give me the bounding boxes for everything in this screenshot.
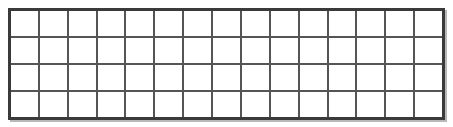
mesh-cell (69, 11, 96, 36)
mesh-cell (155, 11, 182, 36)
mesh-cell (213, 11, 240, 36)
mesh-cell (329, 92, 356, 117)
mesh-cell (386, 92, 413, 117)
mesh-cell (242, 11, 269, 36)
mesh-cell (271, 11, 298, 36)
mesh-cell (271, 92, 298, 117)
mesh-cell (40, 38, 67, 63)
mesh-cell (69, 92, 96, 117)
wire-mesh-panel (8, 8, 445, 120)
mesh-cell (386, 65, 413, 90)
mesh-cell (213, 92, 240, 117)
mesh-cell (271, 65, 298, 90)
mesh-cell (98, 92, 125, 117)
mesh-cell (126, 38, 153, 63)
mesh-cell (386, 11, 413, 36)
mesh-cell (415, 38, 442, 63)
mesh-cell (329, 11, 356, 36)
mesh-cell (155, 65, 182, 90)
mesh-cell (357, 11, 384, 36)
mesh-cell (126, 65, 153, 90)
mesh-cell (184, 11, 211, 36)
mesh-cell (11, 11, 38, 36)
mesh-cell (357, 38, 384, 63)
mesh-cell (184, 65, 211, 90)
mesh-cell (357, 92, 384, 117)
mesh-cell (329, 65, 356, 90)
mesh-cell (242, 92, 269, 117)
mesh-cell (300, 65, 327, 90)
mesh-cell (69, 65, 96, 90)
mesh-cell (213, 65, 240, 90)
image-canvas (0, 0, 453, 127)
mesh-cell (98, 11, 125, 36)
mesh-cell (357, 65, 384, 90)
mesh-cell (415, 11, 442, 36)
mesh-cell (98, 38, 125, 63)
mesh-cell (155, 38, 182, 63)
mesh-cell (40, 65, 67, 90)
mesh-cell (300, 11, 327, 36)
mesh-cell (40, 11, 67, 36)
mesh-cell (329, 38, 356, 63)
mesh-cell (69, 38, 96, 63)
mesh-cell (300, 92, 327, 117)
mesh-cell (386, 38, 413, 63)
mesh-cell (184, 92, 211, 117)
mesh-cell (126, 92, 153, 117)
mesh-cell (155, 92, 182, 117)
mesh-cell (11, 92, 38, 117)
mesh-cell (300, 38, 327, 63)
mesh-cell (126, 11, 153, 36)
mesh-cell (213, 38, 240, 63)
mesh-cell (242, 38, 269, 63)
mesh-cell (242, 65, 269, 90)
mesh-cell (11, 38, 38, 63)
mesh-cell (184, 38, 211, 63)
mesh-cell (40, 92, 67, 117)
mesh-cell (98, 65, 125, 90)
mesh-cell (11, 65, 38, 90)
mesh-cell (271, 38, 298, 63)
mesh-cell (415, 65, 442, 90)
mesh-cell (415, 92, 442, 117)
